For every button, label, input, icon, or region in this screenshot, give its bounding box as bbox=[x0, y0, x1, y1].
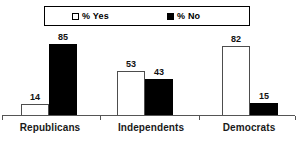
category-label-democrats: Democrats bbox=[200, 121, 298, 135]
bar-group-democrats: 82 15 bbox=[222, 26, 278, 116]
x-axis-line bbox=[2, 115, 295, 116]
bar-value-label: 85 bbox=[49, 33, 77, 42]
plot-area: 14 85 53 43 82 15 bbox=[0, 26, 298, 116]
chart-legend: % Yes % No bbox=[44, 6, 250, 26]
legend-label-yes: % Yes bbox=[82, 12, 109, 21]
bar-chart: % Yes % No 14 85 53 43 bbox=[0, 0, 298, 153]
legend-entry-yes: % Yes bbox=[72, 12, 109, 21]
bar-value-label: 43 bbox=[145, 68, 173, 77]
x-axis-tick bbox=[100, 116, 101, 120]
x-axis-tick bbox=[199, 116, 200, 120]
legend-label-no: % No bbox=[177, 12, 200, 21]
bar-rect-no bbox=[49, 44, 77, 116]
legend-swatch-white-square-icon bbox=[72, 13, 79, 20]
x-axis-tick bbox=[2, 116, 3, 120]
bar-group-republicans: 14 85 bbox=[21, 26, 78, 116]
bar-rect-no bbox=[145, 79, 173, 116]
category-label-independents: Independents bbox=[101, 121, 201, 135]
bar-rect-yes bbox=[117, 71, 145, 116]
bar-value-label: 53 bbox=[117, 60, 145, 69]
legend-swatch-black-square-icon bbox=[167, 13, 174, 20]
bar-group-independents: 53 43 bbox=[117, 26, 173, 116]
x-axis-tick bbox=[295, 116, 296, 120]
bar-value-label: 82 bbox=[222, 35, 250, 44]
bar-value-label: 14 bbox=[21, 93, 49, 102]
x-axis-category-labels: Republicans Independents Democrats bbox=[0, 121, 298, 139]
legend-entry-no: % No bbox=[167, 12, 200, 21]
bar-value-label: 15 bbox=[250, 92, 278, 101]
bar-rect-yes bbox=[222, 46, 250, 116]
category-label-republicans: Republicans bbox=[0, 121, 100, 135]
